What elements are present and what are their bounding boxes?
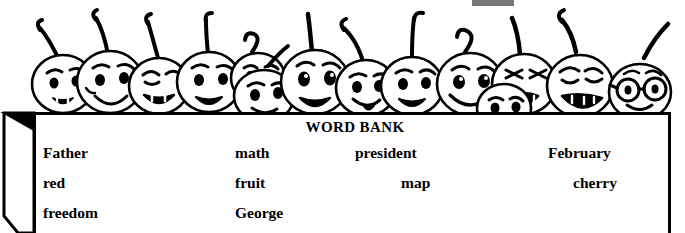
cherry-face-13 — [547, 10, 613, 117]
word-bank-title: WORD BANK — [36, 119, 674, 136]
word-bank-item[interactable]: fruit — [235, 173, 265, 193]
word-bank-item[interactable]: February — [548, 143, 611, 163]
cherry-characters-row — [0, 0, 685, 120]
word-bank-item[interactable]: red — [43, 173, 65, 193]
word-bank-box-side-panel — [0, 88, 36, 233]
worksheet-page: WORD BANK Father math president February… — [0, 0, 685, 233]
word-bank-box: WORD BANK Father math president February… — [33, 112, 671, 233]
word-bank-item[interactable]: map — [401, 173, 430, 193]
cherry-face-14-glasses — [609, 24, 671, 120]
word-bank-row: freedom George — [36, 203, 674, 231]
word-bank-row: Father math president February — [36, 143, 674, 171]
cherry-face-4 — [177, 13, 241, 112]
word-bank-row: red fruit map cherry — [36, 173, 674, 201]
word-bank-item[interactable]: freedom — [43, 203, 98, 223]
word-bank-item[interactable]: president — [355, 143, 417, 163]
cherry-face-9 — [381, 13, 443, 115]
word-bank-item[interactable]: Father — [43, 143, 88, 163]
word-bank-item[interactable]: cherry — [573, 173, 617, 193]
scan-artifact-mark — [472, 0, 514, 6]
word-bank-item[interactable]: George — [235, 203, 283, 223]
word-bank-item[interactable]: math — [235, 143, 269, 163]
